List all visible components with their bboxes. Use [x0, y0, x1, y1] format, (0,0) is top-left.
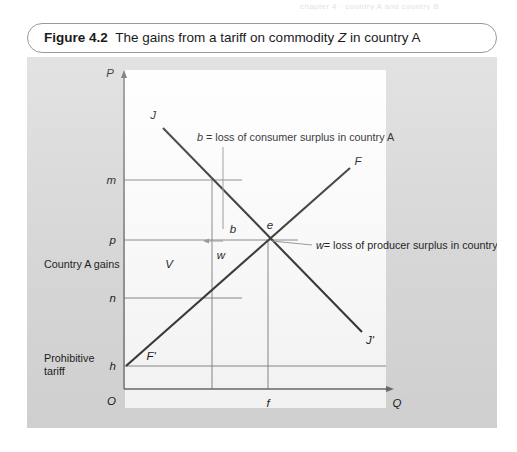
chart-svg: P m p n h O f Q J J' F F' b w V e b = lo… — [27, 57, 497, 428]
annotation-b-note: b = loss of consumer surplus in country … — [197, 131, 395, 143]
x-tick-label-f: f — [266, 397, 271, 409]
x-axis-arrow — [386, 386, 394, 392]
curve-label-F-prime: F' — [146, 350, 156, 362]
y-tick-label-h: h — [110, 360, 116, 372]
x-axis-label-Q: Q — [393, 397, 402, 409]
region-label-w: w — [217, 249, 226, 261]
curve-label-J: J — [149, 109, 156, 121]
arrow-head-w — [203, 239, 209, 244]
curve-label-J-prime: J' — [365, 334, 375, 346]
annotation-w-rest: = loss of producer surplus in country B — [324, 239, 497, 251]
figure-caption-text: Figure 4.2 The gains from a tariff on co… — [44, 30, 420, 45]
page-header-ghost-text: chapter 4 · country A and country B — [300, 2, 500, 10]
demand-curve-J — [163, 128, 362, 332]
region-label-b: b — [230, 223, 237, 235]
figure-page: chapter 4 · country A and country B Figu… — [0, 0, 517, 452]
caption-title-part1: The gains from a tariff on commodity — [115, 30, 338, 45]
curve-label-F: F — [354, 155, 362, 167]
side-label-prohibitive-line2: tariff — [44, 365, 66, 377]
region-label-V: V — [165, 258, 174, 270]
annotation-w-note: w= loss of producer surplus in country B — [316, 239, 497, 251]
y-tick-label-p: p — [109, 234, 117, 246]
point-label-e: e — [267, 219, 273, 231]
supply-curve-F — [126, 168, 350, 366]
y-axis-arrow — [121, 70, 127, 78]
annotation-b-rest: = loss of consumer surplus in country A — [203, 131, 395, 143]
figure-number: Figure 4.2 — [44, 30, 108, 45]
figure-body: P m p n h O f Q J J' F F' b w V e b = lo… — [27, 57, 497, 428]
figure-caption-box: Figure 4.2 The gains from a tariff on co… — [27, 23, 497, 53]
side-label-country-gains: Country A gains — [44, 258, 120, 270]
y-tick-label-n: n — [110, 292, 116, 304]
origin-label-O: O — [107, 395, 116, 407]
side-label-prohibitive-line1: Prohibitive — [44, 352, 94, 364]
y-tick-label-m: m — [106, 174, 116, 186]
y-axis-label-P: P — [106, 67, 114, 79]
caption-title-commodity: Z — [338, 30, 346, 45]
caption-title-part2: in country A — [346, 30, 420, 45]
